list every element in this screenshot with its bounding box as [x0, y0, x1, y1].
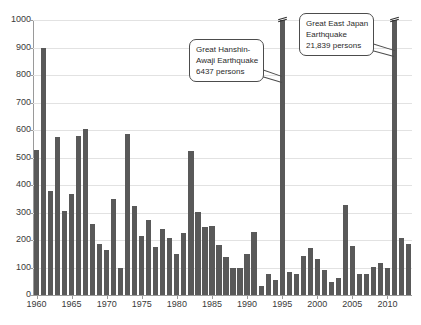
x-axis-tick-label: 1975: [127, 299, 157, 309]
bar: [406, 244, 411, 295]
bar: [174, 254, 179, 295]
y-axis-tick-label: 800: [3, 70, 31, 79]
bar: [216, 245, 221, 295]
bar: [350, 246, 355, 295]
x-axis-tick-label: 2000: [302, 299, 332, 309]
x-axis-tick-label: 1980: [162, 299, 192, 309]
bar: [237, 268, 242, 295]
bar: [287, 272, 292, 295]
bar: [392, 20, 397, 295]
bar: [266, 274, 271, 295]
y-axis-tick-label: 600: [3, 125, 31, 134]
x-axis-tick-label: 1970: [92, 299, 122, 309]
x-axis-tick: [72, 296, 73, 299]
callout-line: Awaji Earthquake: [196, 55, 258, 66]
callout-line: Earthquake: [306, 29, 368, 40]
bar: [308, 248, 313, 295]
bar: [125, 134, 130, 295]
grid-line: [33, 295, 412, 296]
bar: [97, 244, 102, 295]
bar: [202, 227, 207, 295]
bar: [371, 267, 376, 295]
bar: [62, 211, 67, 295]
bar: [48, 191, 53, 295]
grid-line: [33, 185, 412, 186]
bar: [301, 256, 306, 295]
y-axis-tick-label: 400: [3, 180, 31, 189]
bar: [132, 206, 137, 295]
x-axis-tick-label: 1965: [57, 299, 87, 309]
y-axis-tick-label: 200: [3, 235, 31, 244]
x-axis-tick-label: 2010: [372, 299, 402, 309]
y-axis-tick-label: 300: [3, 208, 31, 217]
bar: [378, 263, 383, 295]
x-axis-tick-label: 1960: [22, 299, 52, 309]
y-axis-tick: [30, 75, 33, 76]
y-axis-tick: [30, 240, 33, 241]
bar: [259, 286, 264, 295]
grid-line: [33, 103, 412, 104]
x-axis-tick: [142, 296, 143, 299]
y-axis-tick-label: 500: [3, 153, 31, 162]
x-axis-tick: [317, 296, 318, 299]
x-axis-tick: [387, 296, 388, 299]
bar: [364, 274, 369, 295]
x-axis-tick-label: 1985: [197, 299, 227, 309]
bar: [118, 268, 123, 296]
y-axis-tick: [30, 130, 33, 131]
x-axis-tick: [177, 296, 178, 299]
y-axis-tick-label: 700: [3, 98, 31, 107]
bar: [90, 224, 95, 295]
y-axis-tick: [30, 268, 33, 269]
great-hanshin-awaji-callout: Great Hanshin-Awaji Earthquake6437 perso…: [189, 39, 264, 82]
bar: [399, 238, 404, 295]
x-axis-tick: [247, 296, 248, 299]
bar: [195, 212, 200, 295]
bar: [336, 278, 341, 295]
bar: [188, 151, 193, 295]
y-axis-tick: [30, 158, 33, 159]
bar: [251, 232, 256, 295]
bar: [153, 247, 158, 295]
x-axis-tick: [282, 296, 283, 299]
y-axis-tick-label: 0: [3, 290, 31, 299]
bar: [34, 150, 39, 295]
bar: [167, 238, 172, 295]
bar: [139, 236, 144, 295]
x-axis-tick-label: 1990: [232, 299, 262, 309]
y-axis-tick-label: 900: [3, 43, 31, 52]
bar: [329, 282, 334, 295]
grid-line: [33, 158, 412, 159]
bar: [83, 129, 88, 295]
bar: [69, 194, 74, 295]
bar: [315, 259, 320, 295]
bar: [146, 220, 151, 295]
bar: [244, 254, 249, 295]
x-axis-tick-label: 1995: [267, 299, 297, 309]
y-axis-tick: [30, 185, 33, 186]
grid-line: [33, 130, 412, 131]
bar: [223, 257, 228, 295]
bar: [181, 233, 186, 295]
bar: [343, 205, 348, 295]
great-east-japan-callout: Great East JapanEarthquake21,839 persons: [299, 13, 374, 56]
bar: [230, 268, 235, 295]
y-axis-labels: 01002003004005006007008009001000: [0, 0, 31, 325]
y-axis-tick: [30, 295, 33, 296]
bar: [76, 136, 81, 295]
bar: [294, 274, 299, 295]
bar: [322, 270, 327, 295]
y-axis-tick-label: 1000: [3, 15, 31, 24]
y-axis-tick: [30, 20, 33, 21]
bar: [160, 229, 165, 295]
x-axis-tick: [212, 296, 213, 299]
callout-line: Great Hanshin-: [196, 44, 258, 55]
x-axis-tick: [352, 296, 353, 299]
bar: [357, 274, 362, 295]
x-axis-tick: [37, 296, 38, 299]
y-axis-tick: [30, 213, 33, 214]
x-axis-tick-label: 2005: [337, 299, 367, 309]
callout-line: Great East Japan: [306, 18, 368, 29]
y-axis-tick-label: 100: [3, 263, 31, 272]
y-axis-tick: [30, 103, 33, 104]
